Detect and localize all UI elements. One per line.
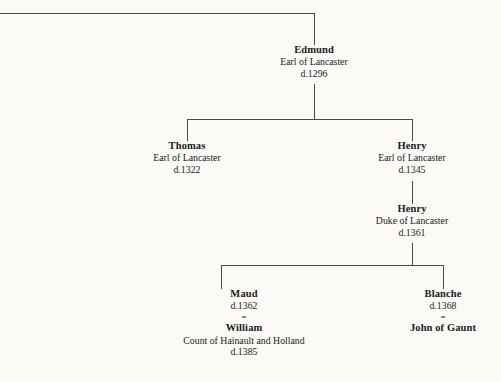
connector-down-to-thomas: [187, 119, 188, 141]
node-william-name: William: [183, 322, 304, 334]
connector-down-to-henry-earl: [412, 119, 413, 141]
node-edmund-name: Edmund: [280, 44, 347, 56]
connector-top-horizontal: [0, 13, 315, 14]
marriage-symbol-maud: =: [183, 312, 304, 322]
node-maud-name: Maud: [183, 288, 304, 300]
node-henry-duke-death: d.1361: [376, 227, 448, 239]
node-thomas-name: Thomas: [153, 140, 220, 152]
node-henry-earl-title: Earl of Lancaster: [378, 152, 445, 164]
node-maud-death: d.1362: [183, 300, 304, 312]
node-maud: Maud d.1362 = William Count of Hainault …: [183, 288, 304, 358]
connector-edmund-down: [314, 84, 315, 120]
node-edmund: Edmund Earl of Lancaster d.1296: [280, 44, 347, 79]
node-edmund-title: Earl of Lancaster: [280, 56, 347, 68]
node-henry-duke-name: Henry: [376, 203, 448, 215]
node-william-death: d.1385: [183, 346, 304, 358]
node-henry-earl-death: d.1345: [378, 164, 445, 176]
node-henry-earl: Henry Earl of Lancaster d.1345: [378, 140, 445, 175]
node-william-title: Count of Hainault and Holland: [183, 335, 304, 347]
genealogy-chart: Edmund Earl of Lancaster d.1296 Thomas E…: [0, 0, 501, 382]
node-henry-duke-title: Duke of Lancaster: [376, 215, 448, 227]
node-thomas-title: Earl of Lancaster: [153, 152, 220, 164]
node-thomas-death: d.1322: [153, 164, 220, 176]
connector-top-stem-to-edmund: [314, 13, 315, 45]
node-blanche-name: Blanche: [410, 288, 476, 300]
connector-edmund-children-bar: [187, 119, 413, 120]
connector-henry-earl-to-henry-duke: [412, 181, 413, 204]
connector-henry-duke-children-bar: [221, 265, 444, 266]
connector-down-to-maud: [221, 265, 222, 289]
node-blanche: Blanche d.1368 = John of Gaunt: [410, 288, 476, 335]
connector-down-to-blanche: [443, 265, 444, 289]
node-thomas: Thomas Earl of Lancaster d.1322: [153, 140, 220, 175]
marriage-symbol-blanche: =: [410, 312, 476, 322]
connector-henry-duke-down: [412, 243, 413, 266]
node-henry-earl-name: Henry: [378, 140, 445, 152]
node-henry-duke: Henry Duke of Lancaster d.1361: [376, 203, 448, 238]
node-edmund-death: d.1296: [280, 68, 347, 80]
node-john-of-gaunt-name: John of Gaunt: [410, 322, 476, 334]
node-blanche-death: d.1368: [410, 300, 476, 312]
